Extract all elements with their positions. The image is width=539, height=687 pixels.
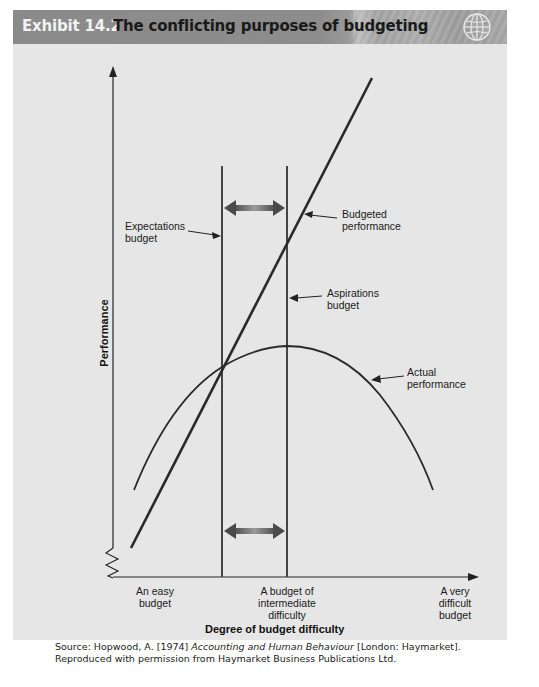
label-actual-performance: Actual performance — [407, 366, 466, 390]
source-line-1: Source: Hopwood, A. [1974] Accounting an… — [55, 641, 461, 653]
leader-expectations — [188, 231, 221, 239]
budgeted-performance-line — [131, 78, 372, 548]
leader-budgeted — [304, 211, 337, 218]
label-line: Aspirations — [327, 287, 379, 299]
leader-actual — [371, 375, 404, 383]
source-suffix: [London: Haymarket]. — [354, 641, 461, 652]
tick-line: A budget of — [245, 585, 329, 597]
source-prefix: Source: Hopwood, A. [1974] — [55, 641, 191, 652]
y-axis-title: Performance — [98, 293, 110, 373]
label-line: Budgeted — [342, 208, 401, 220]
leader-aspirations — [289, 294, 322, 302]
tick-line: intermediate — [245, 597, 329, 609]
tick-line: A very — [425, 585, 485, 597]
x-axis-title: Degree of budget difficulty — [205, 623, 344, 635]
diagram-canvas — [0, 0, 539, 687]
x-tick-intermediate: A budget of intermediate difficulty — [245, 585, 329, 621]
x-axis — [113, 573, 479, 581]
label-expectations-budget: Expectations budget — [125, 220, 185, 244]
source-book-title: Accounting and Human Behaviour — [191, 641, 354, 652]
tick-line: budget — [120, 597, 190, 609]
label-line: performance — [342, 220, 401, 232]
label-budgeted-performance: Budgeted performance — [342, 208, 401, 232]
tick-line: difficulty — [245, 609, 329, 621]
label-line: budget — [125, 232, 185, 244]
double-arrow-bottom — [224, 523, 285, 539]
source-line-2: Reproduced with permission from Haymarke… — [55, 653, 461, 665]
label-line: budget — [327, 299, 379, 311]
x-tick-easy: An easy budget — [120, 585, 190, 609]
tick-line: budget — [425, 609, 485, 621]
label-aspirations-budget: Aspirations budget — [327, 287, 379, 311]
tick-line: An easy — [120, 585, 190, 597]
label-line: performance — [407, 378, 466, 390]
label-line: Expectations — [125, 220, 185, 232]
tick-line: difficult — [425, 597, 485, 609]
actual-performance-curve — [134, 346, 433, 490]
source-citation: Source: Hopwood, A. [1974] Accounting an… — [55, 641, 461, 665]
label-line: Actual — [407, 366, 466, 378]
x-tick-difficult: A very difficult budget — [425, 585, 485, 621]
double-arrow-top — [224, 200, 285, 216]
